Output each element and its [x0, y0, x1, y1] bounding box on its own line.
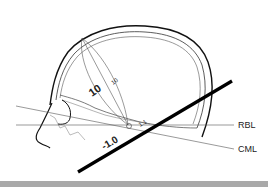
skull-inner-contour — [56, 32, 205, 128]
cranial-base — [60, 95, 197, 128]
label-rbl: RBL — [238, 120, 256, 130]
label-ratio-near: 1.1 — [138, 118, 149, 128]
label-distance-small: 10 — [110, 77, 119, 86]
thick-diagonal-line — [78, 81, 232, 172]
label-cml: CML — [238, 144, 257, 154]
skull-diagram: RBL CML 10 10 1.1 -1.0 — [0, 0, 268, 187]
footer-bar — [0, 181, 268, 187]
face-profile — [36, 103, 52, 148]
orbit-contour — [58, 100, 71, 124]
